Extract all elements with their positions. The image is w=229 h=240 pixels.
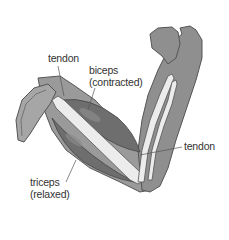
fist (150, 27, 180, 64)
label-biceps: biceps (89, 64, 118, 76)
leader-triceps (66, 160, 76, 182)
label-tendon-top: tendon (48, 52, 79, 64)
label-triceps: triceps (30, 176, 60, 188)
label-triceps-state: (relaxed) (30, 188, 70, 200)
label-tendon-right: tendon (184, 140, 215, 152)
label-biceps-state: (contracted) (89, 76, 143, 88)
